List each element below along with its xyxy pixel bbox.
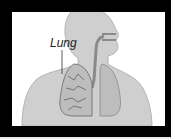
lung-label: Lung [50,36,77,50]
diagram-panel: Lung [12,12,165,126]
diagram-frame: Lung [0,0,171,137]
body-illustration [12,12,165,126]
